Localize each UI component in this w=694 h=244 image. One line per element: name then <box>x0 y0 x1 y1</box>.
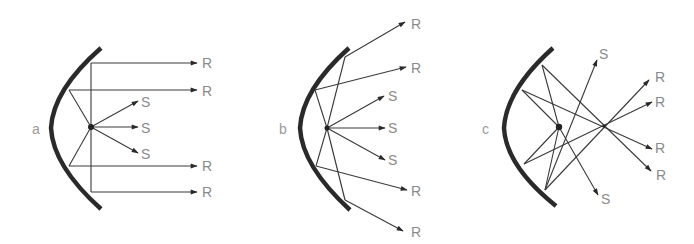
reflected-label-a-4: R <box>202 184 212 200</box>
direct-ray-b-1 <box>327 96 384 128</box>
reflected-ray-c-4 <box>545 80 649 190</box>
source-point-a <box>88 124 94 130</box>
direct-ray-a-3 <box>91 127 138 153</box>
reflected-label-a-3: R <box>202 158 212 174</box>
reflected-label-b-4: R <box>411 224 421 240</box>
direct-label-b-2: S <box>388 120 397 136</box>
panel-label-a: a <box>32 121 40 137</box>
incident-ray-c-3 <box>524 127 559 164</box>
reflected-label-c-1: R <box>655 69 665 85</box>
panel-b: b R R R R S S S <box>279 16 421 240</box>
panel-c: c R R R R S S <box>482 46 666 207</box>
direct-label-b-3: S <box>388 152 397 168</box>
direct-ray-a-1 <box>91 101 138 127</box>
reflected-label-b-1: R <box>411 16 421 32</box>
incident-ray-b-2 <box>315 90 327 128</box>
panel-label-c: c <box>482 121 489 137</box>
direct-label-a-2: S <box>141 120 150 136</box>
reflected-label-b-3: R <box>411 183 421 199</box>
reflected-ray-c-1 <box>542 65 651 171</box>
image-point-c <box>602 124 605 127</box>
panel-a: a R R R R S S S <box>32 48 212 209</box>
incident-ray-a-2 <box>69 90 91 127</box>
direct-label-c-1: S <box>599 46 608 62</box>
reflected-ray-c-2 <box>522 90 652 149</box>
incident-ray-c-4 <box>545 127 559 190</box>
direct-ray-b-3 <box>327 128 385 160</box>
reflected-label-a-1: R <box>202 55 212 71</box>
reflected-ray-b-1 <box>345 22 405 57</box>
direct-label-a-3: S <box>141 146 150 162</box>
direct-label-c-2: S <box>601 191 610 207</box>
direct-label-b-1: S <box>388 88 397 104</box>
reflected-label-c-3: R <box>655 140 665 156</box>
reflected-label-c-2: R <box>655 94 665 110</box>
source-point-b <box>325 126 330 131</box>
panel-label-b: b <box>279 121 287 137</box>
direct-label-a-1: S <box>141 94 150 110</box>
source-point-c <box>556 124 562 130</box>
reflected-ray-b-4 <box>345 200 403 231</box>
reflector-diagram: a R R R R S S S b <box>0 0 694 244</box>
incident-ray-c-1 <box>542 65 559 127</box>
direct-ray-c-1 <box>545 60 597 190</box>
incident-ray-b-3 <box>316 128 327 166</box>
incident-ray-a-3 <box>69 127 91 166</box>
reflected-label-c-4: R <box>656 167 666 183</box>
reflected-label-b-2: R <box>411 60 421 76</box>
reflected-label-a-2: R <box>202 83 212 99</box>
